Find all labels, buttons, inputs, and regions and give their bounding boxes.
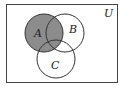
label-a: A [33,27,42,40]
label-c: C [51,59,60,72]
universe-rectangle [7,5,118,83]
label-b: B [68,23,77,36]
venn-diagram: A B C U [0,0,125,88]
label-universe: U [104,7,114,20]
